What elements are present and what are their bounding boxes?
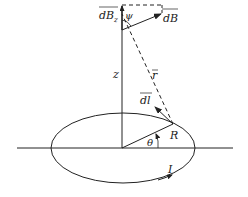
label-z: z (112, 68, 119, 81)
label-R: R (169, 129, 178, 142)
svg-text:dB: dB (99, 9, 114, 22)
label-r: r (152, 69, 158, 82)
label-dl: dl (140, 93, 152, 107)
angle-theta-arc (156, 134, 158, 148)
current-element-dl-arrow (155, 107, 173, 124)
label-theta: θ (147, 137, 153, 148)
svg-text:dl: dl (140, 94, 151, 107)
svg-text:r: r (152, 69, 158, 82)
position-vector-r (122, 14, 173, 124)
label-dBz: dB z (99, 7, 118, 24)
label-I: I (167, 163, 173, 176)
label-dB: dB (162, 9, 178, 25)
biot-savart-loop-diagram: dB z ψ dB z r dl R θ I (0, 0, 248, 197)
svg-text:z: z (113, 16, 118, 24)
label-psi: ψ (125, 10, 133, 21)
svg-text:dB: dB (163, 12, 178, 25)
